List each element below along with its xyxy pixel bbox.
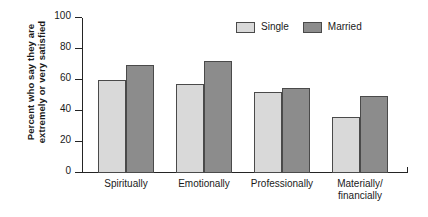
y-axis-tick-label: 20 <box>60 134 71 146</box>
x-axis-category-label-text: Emotionally <box>178 178 230 189</box>
bar-single-2 <box>254 92 282 173</box>
y-axis-tick: 20 <box>75 141 82 142</box>
bar-married-3 <box>360 96 388 173</box>
y-axis-tick-label: 80 <box>60 41 71 53</box>
y-axis-tick-label: 100 <box>54 10 71 22</box>
y-axis-tick-label: 40 <box>60 103 71 115</box>
legend-item-single: Single <box>236 21 289 33</box>
y-axis-tick-label: 60 <box>60 72 71 84</box>
y-axis-tick: 60 <box>75 79 82 80</box>
legend-item-married: Married <box>303 21 362 33</box>
x-axis-category-label: Spiritually <box>86 178 166 190</box>
y-axis-tick: 0 <box>75 172 82 173</box>
y-axis-title-line-2: extremely or very satisfied <box>36 21 47 144</box>
x-axis-right-tick <box>407 167 408 173</box>
bar-married-1 <box>204 61 232 173</box>
x-axis-category-label-text: Spiritually <box>104 178 147 189</box>
y-axis-tick: 40 <box>75 110 82 111</box>
legend-label-married: Married <box>328 21 362 33</box>
x-axis-category-label-text: Professionally <box>251 178 313 189</box>
bar-single-3 <box>332 117 360 173</box>
y-axis-tick: 80 <box>75 48 82 49</box>
bar-married-0 <box>126 65 154 174</box>
legend-label-single: Single <box>261 21 289 33</box>
x-axis-category-label: Materially/financially <box>320 178 400 201</box>
bar-chart: Percent who say they are extremely or ve… <box>0 0 428 217</box>
bar-single-1 <box>176 84 204 173</box>
y-axis-line <box>82 18 83 173</box>
legend: SingleMarried <box>236 21 362 33</box>
plot-area: 020406080100 SpirituallyEmotionallyProfe… <box>82 18 408 173</box>
legend-swatch-single <box>236 22 255 33</box>
legend-swatch-married <box>303 22 322 33</box>
bar-married-2 <box>282 88 310 173</box>
y-axis-title: Percent who say they are extremely or ve… <box>18 2 54 162</box>
x-axis-category-label: Professionally <box>242 178 322 190</box>
y-axis-tick: 100 <box>75 17 82 18</box>
x-axis-category-label: Emotionally <box>164 178 244 190</box>
x-axis-category-label-text: financially <box>320 190 400 202</box>
y-axis-tick-label: 0 <box>65 165 71 177</box>
bar-single-0 <box>98 80 126 173</box>
y-axis-title-line-1: Percent who say they are <box>25 24 36 140</box>
x-axis-category-label-text: Materially/ <box>337 178 383 189</box>
